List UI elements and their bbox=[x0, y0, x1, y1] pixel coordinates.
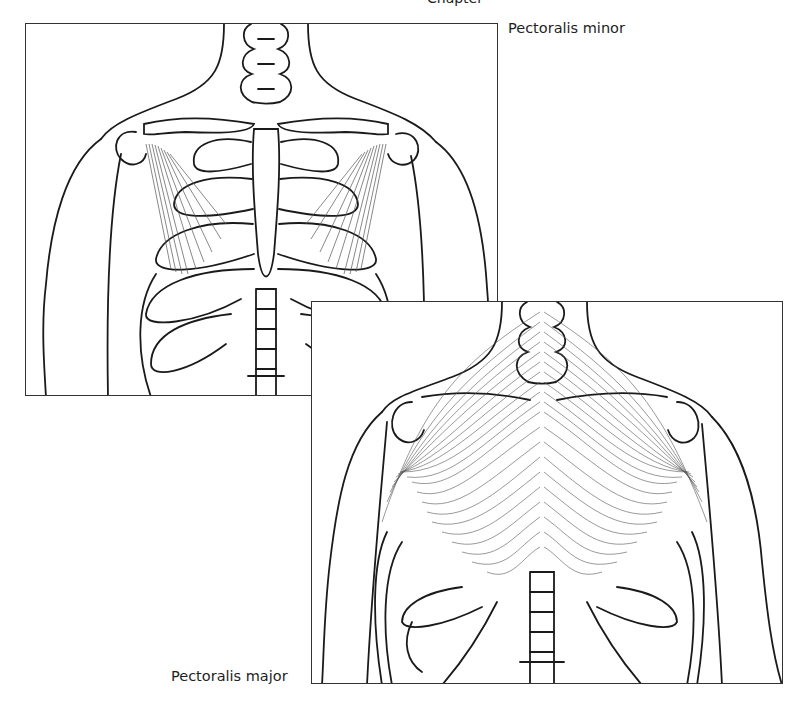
panel-pectoralis-major bbox=[311, 301, 783, 684]
label-pectoralis-major: Pectoralis major bbox=[171, 668, 288, 684]
skeleton-illustration-major bbox=[312, 302, 783, 684]
label-pectoralis-minor: Pectoralis minor bbox=[508, 20, 625, 36]
figure-caption-fragment: Chapter bbox=[380, 0, 530, 6]
